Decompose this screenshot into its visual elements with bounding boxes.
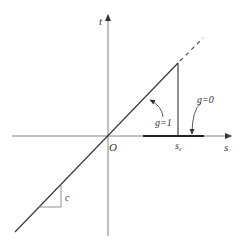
origin-label: O (109, 141, 117, 153)
g1-label: g=1 (155, 117, 172, 128)
s-axis-label: s (224, 141, 228, 153)
diagram-canvas: t s O sc g=1 g=0 c (0, 0, 240, 243)
g0-label: g=0 (197, 94, 214, 105)
diagonal-dashed-extension (180, 38, 203, 61)
g0-arrow (192, 103, 201, 134)
g1-arrow (150, 100, 163, 117)
t-axis-label: t (99, 15, 103, 27)
sc-label: sc (175, 140, 183, 153)
slope-c-label: c (65, 192, 70, 203)
sc-label-subscript: c (179, 145, 183, 153)
